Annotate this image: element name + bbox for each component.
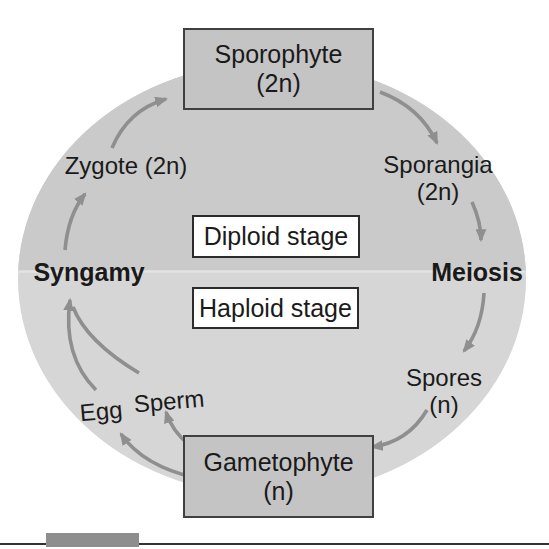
syngamy-label: Syngamy: [33, 259, 144, 286]
sporangia-label-line2: (2n): [383, 178, 492, 205]
spores-label-line2: (n): [406, 391, 482, 418]
gametophyte-label: Gametophyte: [203, 448, 353, 477]
diploid-stage-label: Diploid stage: [204, 222, 349, 251]
spores-label: Spores (n): [406, 364, 482, 418]
diploid-stage-box: Diploid stage: [192, 215, 360, 258]
zygote-label: Zygote (2n): [65, 152, 188, 179]
haploid-stage-label: Haploid stage: [199, 294, 352, 323]
spores-label-line1: Spores: [406, 364, 482, 391]
sporophyte-box: Sporophyte (2n): [183, 28, 374, 110]
sporangia-label: Sporangia (2n): [383, 151, 492, 205]
gametophyte-ploidy: (n): [263, 477, 294, 506]
sporophyte-ploidy: (2n): [256, 69, 300, 98]
gametophyte-box: Gametophyte (n): [183, 435, 374, 518]
sporangia-label-line1: Sporangia: [383, 151, 492, 178]
haploid-stage-box: Haploid stage: [192, 287, 359, 329]
life-cycle-figure: Sporophyte (2n) Gametophyte (n) Diploid …: [0, 0, 549, 549]
meiosis-label: Meiosis: [431, 259, 523, 286]
egg-label: Egg: [79, 396, 124, 427]
caption-bar: [46, 533, 139, 547]
sporophyte-label: Sporophyte: [215, 40, 343, 69]
